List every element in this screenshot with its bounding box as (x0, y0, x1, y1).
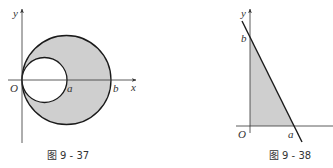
origin-label: O (10, 82, 18, 94)
origin-label: O (238, 128, 246, 140)
y-axis-label: y (12, 7, 18, 19)
point-a-label: a (288, 128, 294, 140)
figure-caption: 图 9 - 38 (269, 150, 311, 161)
point-a-label: a (67, 82, 73, 94)
x-axis-label: x (130, 81, 136, 93)
figure-9-37: y x O a b 图 9 - 37 (8, 7, 136, 161)
point-b-label: b (113, 82, 119, 94)
figure-9-38: y O b a 图 9 - 38 (236, 7, 333, 161)
point-b-label: b (241, 32, 247, 44)
diagram-canvas: y x O a b 图 9 - 37 y O b a 图 9 - 38 (0, 0, 333, 168)
y-axis-label: y (240, 7, 246, 19)
figure-caption: 图 9 - 37 (47, 150, 89, 161)
